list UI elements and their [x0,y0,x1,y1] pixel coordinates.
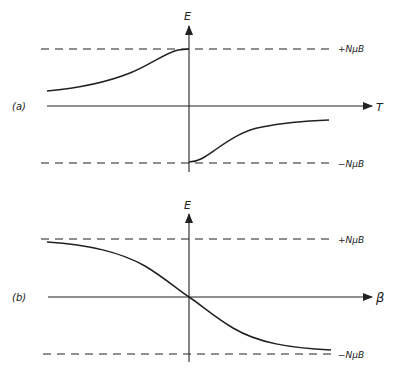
y-axis-label-b: E [184,199,191,212]
lower-asymptote-label-a: −NμB [338,159,364,169]
x-axis-label-b: β [375,290,384,305]
y-axis-label-a: E [184,10,191,23]
panel-label-a: (a) [12,101,26,112]
panel-label-b: (b) [12,292,26,303]
panel-a: E T +NμB −NμB (a) [12,10,384,172]
panel-b: E β +NμB −NμB (b) [12,199,384,362]
energy-figure: E T +NμB −NμB (a) E β +NμB −NμB (b) [0,0,400,376]
curve-negative-T [47,49,189,91]
upper-asymptote-label-a: +NμB [338,44,364,54]
upper-asymptote-label-b: +NμB [338,235,364,245]
x-axis-label-a: T [376,101,384,114]
lower-asymptote-label-b: −NμB [338,350,364,360]
curve-positive-T [189,120,329,162]
